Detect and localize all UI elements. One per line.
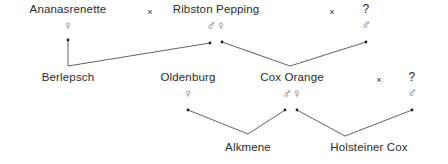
cross-top-left: × (147, 8, 152, 17)
edge-dot-ribston-right (221, 41, 224, 44)
edge-cox-holsteiner (297, 110, 345, 136)
male-icon: ♂ (407, 86, 417, 99)
node-label-holsteiner-cox: Holsteiner Cox (330, 142, 408, 154)
sex-symbols-unknown-top: ♂ (361, 18, 371, 31)
female-icon: ♀ (63, 19, 73, 32)
edge-ribston-cox (222, 42, 290, 66)
sex-symbols-ananasrenette: ♀ (30, 19, 107, 32)
node-label-cox-orange: Cox Orange (260, 72, 324, 84)
node-label-unknown-mid: ? (407, 71, 417, 83)
edge-dot-cox-right (296, 109, 299, 112)
edge-dot-unknown-top (365, 41, 368, 44)
node-unknown-mid[interactable]: ? ♂ (407, 71, 417, 99)
node-ananasrenette[interactable]: Ananasrenette ♀ (30, 4, 107, 32)
node-label-oldenburg: Oldenburg (160, 72, 215, 84)
edge-ribston-berlepsch (68, 43, 210, 66)
female-icon: ♀ (292, 87, 302, 100)
male-icon: ♂ (361, 18, 371, 31)
sex-symbols-cox-orange: ♂♀ (260, 87, 324, 100)
edge-cox-alkmene (248, 110, 285, 134)
female-icon: ♀ (216, 19, 226, 32)
node-alkmene[interactable]: Alkmene (225, 142, 271, 154)
node-oldenburg[interactable]: Oldenburg ♀ (160, 72, 215, 100)
edge-dot-unknown-mid (411, 109, 414, 112)
edge-dot-oldenburg (187, 109, 190, 112)
node-berlepsch[interactable]: Berlepsch (42, 72, 95, 84)
edge-dot-ananasrenette (67, 39, 70, 42)
pedigree-diagram: Ananasrenette ♀ × Ribston Pepping ♂♀ × ?… (0, 0, 448, 164)
node-label-alkmene: Alkmene (225, 142, 271, 154)
female-icon: ♀ (183, 87, 193, 100)
node-unknown-top[interactable]: ? ♂ (361, 3, 371, 31)
sex-symbols-oldenburg: ♀ (160, 87, 215, 100)
sex-symbols-unknown-mid: ♂ (407, 86, 417, 99)
edge-dot-ribston-left (209, 42, 212, 45)
cross-mid-right: × (376, 76, 381, 85)
node-label-berlepsch: Berlepsch (42, 72, 95, 84)
node-ribston-pepping[interactable]: Ribston Pepping ♂♀ (173, 4, 260, 32)
edge-dot-cox-left (284, 109, 287, 112)
node-label-ribston-pepping: Ribston Pepping (173, 4, 260, 16)
sex-symbols-ribston-pepping: ♂♀ (173, 19, 260, 32)
node-label-ananasrenette: Ananasrenette (30, 4, 107, 16)
cross-top-right: × (329, 8, 334, 17)
edge-unknowntop-cox (290, 42, 366, 66)
node-holsteiner-cox[interactable]: Holsteiner Cox (330, 142, 408, 154)
male-icon: ♂ (206, 19, 216, 32)
edge-oldenburg-alkmene (188, 110, 248, 134)
edge-unknownmid-holsteiner (345, 110, 412, 136)
node-label-unknown-top: ? (361, 3, 371, 15)
male-icon: ♂ (282, 87, 292, 100)
node-cox-orange[interactable]: Cox Orange ♂♀ (260, 72, 324, 100)
